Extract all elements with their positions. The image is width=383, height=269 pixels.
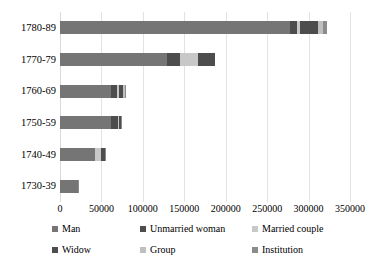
bar-segment[interactable]: [60, 148, 95, 161]
bar-row: [60, 75, 350, 107]
legend-swatch-icon: [140, 247, 146, 253]
plot-area: [60, 12, 350, 202]
x-tick-label: 150000: [169, 202, 199, 216]
chart-legend: ManUnmarried womanMarried coupleWidowGro…: [0, 222, 383, 268]
legend-item[interactable]: Group: [140, 243, 176, 256]
stacked-bar[interactable]: [60, 180, 79, 193]
bar-segment[interactable]: [60, 53, 167, 66]
legend-label: Institution: [262, 243, 303, 256]
x-tick-label: 50000: [89, 202, 114, 216]
bar-segment[interactable]: [125, 85, 126, 98]
x-tick-label: 250000: [252, 202, 282, 216]
bar-chart: 0500001000001500002000002500003000003500…: [0, 0, 383, 269]
bar-segment[interactable]: [180, 53, 197, 66]
bar-segment[interactable]: [60, 116, 111, 129]
x-tick-label: 100000: [128, 202, 158, 216]
bar-segment[interactable]: [78, 180, 79, 193]
legend-swatch-icon: [140, 226, 146, 232]
bar-segment[interactable]: [60, 85, 111, 98]
bar-segment[interactable]: [111, 116, 118, 129]
bar-segment[interactable]: [60, 21, 290, 34]
bar-row: [60, 170, 350, 202]
category-label: 1730-39: [21, 180, 56, 192]
legend-label: Widow: [62, 243, 91, 256]
stacked-bar[interactable]: [60, 21, 327, 34]
bar-segment[interactable]: [60, 180, 78, 193]
legend-item[interactable]: Unmarried woman: [140, 222, 225, 235]
category-label: 1760-69: [21, 85, 56, 97]
category-label: 1750-59: [21, 117, 56, 129]
bar-row: [60, 139, 350, 171]
legend-label: Man: [62, 222, 80, 235]
x-tick-label: 350000: [335, 202, 365, 216]
category-label: 1780-89: [21, 22, 56, 34]
legend-item[interactable]: Widow: [52, 243, 91, 256]
stacked-bar[interactable]: [60, 148, 106, 161]
bar-segment[interactable]: [121, 116, 122, 129]
x-tick-label: 200000: [211, 202, 241, 216]
bar-segment[interactable]: [105, 148, 106, 161]
stacked-bar[interactable]: [60, 116, 122, 129]
legend-swatch-icon: [52, 247, 58, 253]
legend-swatch-icon: [52, 226, 58, 232]
legend-label: Unmarried woman: [150, 222, 225, 235]
legend-label: Married couple: [262, 222, 323, 235]
bar-segment[interactable]: [198, 53, 215, 66]
x-tick-label: 0: [58, 202, 63, 216]
category-label: 1770-79: [21, 54, 56, 66]
bar-segment[interactable]: [167, 53, 180, 66]
bar-row: [60, 107, 350, 139]
legend-swatch-icon: [252, 247, 258, 253]
legend-item[interactable]: Institution: [252, 243, 303, 256]
category-label: 1740-49: [21, 149, 56, 161]
bar-segment[interactable]: [323, 21, 327, 34]
legend-item[interactable]: Married couple: [252, 222, 323, 235]
x-axis: 0500001000001500002000002500003000003500…: [0, 202, 383, 222]
legend-item[interactable]: Man: [52, 222, 80, 235]
bar-segment[interactable]: [290, 21, 297, 34]
bar-segment[interactable]: [300, 21, 317, 34]
bar-row: [60, 12, 350, 44]
legend-swatch-icon: [252, 226, 258, 232]
legend-label: Group: [150, 243, 176, 256]
gridline: [350, 12, 351, 202]
stacked-bar[interactable]: [60, 85, 126, 98]
x-tick-label: 300000: [294, 202, 324, 216]
bar-row: [60, 44, 350, 76]
stacked-bar[interactable]: [60, 53, 215, 66]
